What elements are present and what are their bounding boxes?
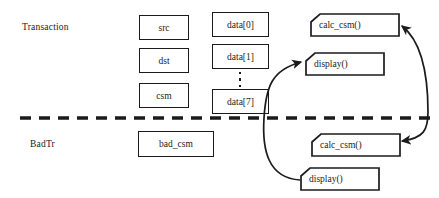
field-box-csm: csm xyxy=(139,83,189,108)
connector-display-badtr-to-display-transaction xyxy=(264,62,301,180)
method-box-calc-csm-badtr: calc_csm() xyxy=(311,133,401,157)
method-box-display-badtr-label: display() xyxy=(309,174,343,184)
method-box-calc-csm-transaction-label: calc_csm() xyxy=(319,20,361,30)
field-box-data7-label: data[7] xyxy=(227,97,254,107)
field-box-data0-label: data[0] xyxy=(227,20,254,30)
method-box-display-transaction-label: display() xyxy=(314,59,348,69)
field-box-bad-csm: bad_csm xyxy=(138,131,214,157)
field-box-dst-label: dst xyxy=(158,56,169,66)
field-box-dst: dst xyxy=(139,48,189,73)
method-box-display-badtr: display() xyxy=(300,167,380,191)
data-array-ellipsis-icon xyxy=(238,72,242,87)
field-box-data1-label: data[1] xyxy=(227,52,254,62)
method-box-display-transaction: display() xyxy=(305,52,385,76)
field-box-data7: data[7] xyxy=(212,89,269,114)
method-box-calc-csm-badtr-label: calc_csm() xyxy=(320,140,362,150)
field-box-data1: data[1] xyxy=(212,44,269,69)
lane-label-transaction: Transaction xyxy=(22,22,69,32)
field-box-data0: data[0] xyxy=(212,12,269,37)
connector-calc-csm-bidirectional xyxy=(402,26,428,141)
field-box-bad-csm-label: bad_csm xyxy=(159,139,193,149)
diagram-canvas: Transaction BadTr src dst csm data[0] da… xyxy=(0,0,439,198)
lane-label-badtr: BadTr xyxy=(30,139,55,149)
field-box-src: src xyxy=(139,15,189,40)
field-box-src-label: src xyxy=(158,23,169,33)
field-box-csm-label: csm xyxy=(156,91,171,101)
method-box-calc-csm-transaction: calc_csm() xyxy=(310,13,400,37)
